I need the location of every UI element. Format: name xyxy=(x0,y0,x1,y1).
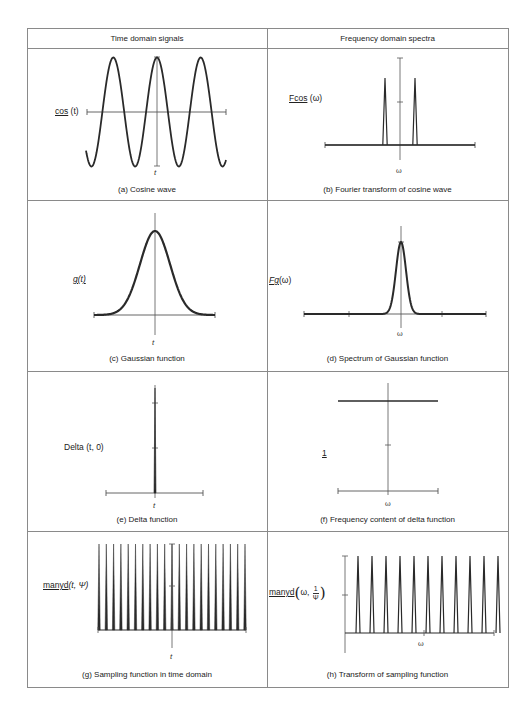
ylabel-d: Fg(ω) xyxy=(269,275,291,285)
g-sample-spike-3 xyxy=(112,544,114,630)
xlabel-f: ω xyxy=(385,500,391,508)
h-spectral-spike-4 xyxy=(398,556,402,633)
g-sample-spike-19 xyxy=(229,544,231,630)
xlabel-d: ω xyxy=(397,330,403,338)
caption-g: (g) Sampling function in time domain xyxy=(27,669,267,681)
g-sample-spike-7 xyxy=(142,544,144,630)
g-sample-spike-5 xyxy=(127,544,129,630)
h-spectral-spike-3 xyxy=(384,556,388,633)
g-sample-spike-8 xyxy=(149,544,151,630)
b-spectral-peak-1 xyxy=(383,78,387,145)
delta-spike xyxy=(154,388,156,493)
fraction-one-over-psi: 1Ψ xyxy=(313,585,319,602)
caption-a: (a) Cosine wave xyxy=(27,184,267,196)
g-sample-spike-15 xyxy=(200,544,202,630)
xlabel-h: ω xyxy=(418,640,424,648)
figure: Time domain signals Frequency domain spe… xyxy=(0,0,532,716)
h-spectral-spike-7 xyxy=(440,556,444,633)
g-sample-spike-18 xyxy=(222,544,224,630)
h-spectral-spike-2 xyxy=(370,556,374,633)
g-sample-spike-1 xyxy=(98,544,100,630)
h-spectral-spike-6 xyxy=(426,556,430,633)
ylabel-b: Fcos (ω) xyxy=(289,93,322,103)
h-spectral-spike-9 xyxy=(468,556,472,633)
g-sample-spike-21 xyxy=(244,544,246,630)
g-sample-spike-14 xyxy=(193,544,195,630)
caption-d: (d) Spectrum of Gaussian function xyxy=(267,353,508,365)
g-sample-spike-13 xyxy=(185,544,187,630)
g-sample-spike-20 xyxy=(237,544,239,630)
xlabel-c: t xyxy=(152,338,154,347)
b-spectral-peak-2 xyxy=(413,78,417,145)
h-spectral-spike-1 xyxy=(356,556,360,633)
g-sample-spike-9 xyxy=(156,544,158,630)
g-sample-spike-16 xyxy=(207,544,209,630)
h-spectral-spike-11 xyxy=(496,556,500,633)
ylabel-f: 1 xyxy=(322,448,327,458)
g-sample-spike-17 xyxy=(215,544,217,630)
g-sample-spike-2 xyxy=(105,544,107,630)
caption-b: (b) Fourier transform of cosine wave xyxy=(267,184,508,196)
caption-f: (f) Frequency content of delta function xyxy=(267,514,508,526)
h-spectral-spike-8 xyxy=(454,556,458,633)
ylabel-h: manyd(ω, 1Ψ) xyxy=(269,584,326,602)
ylabel-c: g(t) xyxy=(73,274,86,284)
h-spectral-spike-5 xyxy=(412,556,416,633)
g-sample-spike-10 xyxy=(164,544,166,630)
gaussian-curve xyxy=(94,231,215,315)
gaussian-spectrum-curve xyxy=(304,242,486,314)
ylabel-e: Delta (t, 0) xyxy=(64,442,104,452)
ylabel-g: manyd(t, Ψ) xyxy=(43,580,88,590)
ylabel-a: cos (t) xyxy=(55,106,79,116)
caption-c: (c) Gaussian function xyxy=(27,353,267,365)
xlabel-g: t xyxy=(170,652,172,661)
xlabel-a: t xyxy=(154,168,156,177)
h-spectral-spike-10 xyxy=(482,556,486,633)
caption-h: (h) Transform of sampling function xyxy=(267,669,508,681)
g-sample-spike-12 xyxy=(178,544,180,630)
xlabel-e: t xyxy=(153,501,155,510)
g-sample-spike-6 xyxy=(134,544,136,630)
xlabel-b: ω xyxy=(396,167,402,175)
caption-e: (e) Delta function xyxy=(27,514,267,526)
g-sample-spike-4 xyxy=(120,544,122,630)
